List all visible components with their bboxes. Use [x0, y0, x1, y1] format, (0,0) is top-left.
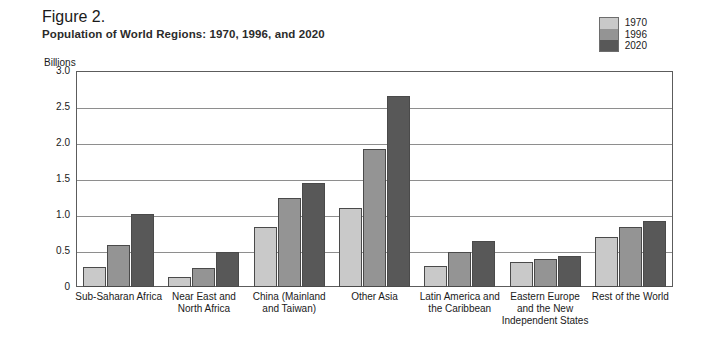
- bar-1996[interactable]: [192, 268, 215, 287]
- legend-label-2020: 2020: [625, 40, 647, 52]
- y-tick-1.0: 1.0: [40, 210, 70, 220]
- bar-2020[interactable]: [216, 252, 239, 287]
- bar-1970[interactable]: [339, 208, 362, 287]
- bar-group: [247, 71, 332, 287]
- bar-2020[interactable]: [472, 241, 495, 287]
- y-tick-2.0: 2.0: [40, 138, 70, 148]
- legend-label-stack: 197019962020: [625, 17, 647, 52]
- y-tick-2.5: 2.5: [40, 102, 70, 112]
- bar-group: [76, 71, 161, 287]
- y-tick-0.5: 0.5: [40, 246, 70, 256]
- figure-header: Figure 2. Population of World Regions: 1…: [42, 8, 325, 42]
- chart-legend: 197019962020: [599, 17, 647, 52]
- bar-1996[interactable]: [448, 252, 471, 287]
- page-title: Population of World Regions: 1970, 1996,…: [42, 26, 325, 42]
- bar-2020[interactable]: [302, 183, 325, 287]
- bar-2020[interactable]: [558, 256, 581, 287]
- figure-number: Figure 2.: [42, 8, 325, 26]
- legend-swatch-stack: [599, 17, 619, 52]
- bar-group: [417, 71, 502, 287]
- bar-1996[interactable]: [534, 259, 557, 287]
- bar-1996[interactable]: [107, 245, 130, 287]
- bar-group: [502, 71, 587, 287]
- x-axis-label: Rest of the World: [574, 291, 687, 303]
- legend-swatch-2020: [600, 40, 618, 51]
- legend-swatch-1970: [600, 18, 618, 29]
- bar-1996[interactable]: [619, 227, 642, 287]
- bar-group: [332, 71, 417, 287]
- bar-1970[interactable]: [168, 277, 191, 287]
- bars-layer: [76, 71, 673, 287]
- x-axis-labels: Sub-Saharan AfricaNear East and North Af…: [76, 291, 673, 339]
- bar-1970[interactable]: [510, 262, 533, 287]
- bar-2020[interactable]: [643, 221, 666, 287]
- bar-group: [588, 71, 673, 287]
- bar-1996[interactable]: [278, 198, 301, 287]
- bar-1970[interactable]: [254, 227, 277, 287]
- bar-2020[interactable]: [387, 96, 410, 287]
- bar-2020[interactable]: [131, 214, 154, 287]
- bar-1970[interactable]: [424, 266, 447, 287]
- y-tick-1.5: 1.5: [40, 174, 70, 184]
- legend-label-1996: 1996: [625, 29, 647, 41]
- bar-1970[interactable]: [83, 267, 106, 287]
- bar-1970[interactable]: [595, 237, 618, 287]
- y-axis-tick-labels: 00.51.01.52.02.53.0: [28, 0, 70, 340]
- legend-swatch-1996: [600, 29, 618, 40]
- y-tick-3.0: 3.0: [40, 66, 70, 76]
- legend-label-1970: 1970: [625, 17, 647, 29]
- bar-1996[interactable]: [363, 149, 386, 287]
- bar-group: [161, 71, 246, 287]
